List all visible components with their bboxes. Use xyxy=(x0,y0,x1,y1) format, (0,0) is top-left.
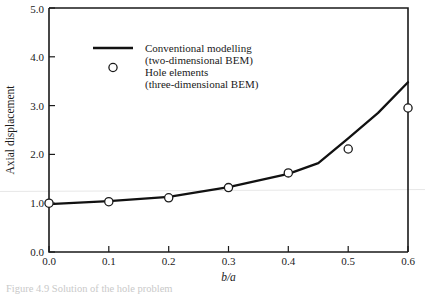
data-point-marker xyxy=(45,199,53,207)
x-tick-label: 0.6 xyxy=(401,255,415,267)
y-axis-ticks xyxy=(49,8,55,252)
x-tick-label: 0.3 xyxy=(222,255,236,267)
legend-entry-0-line1: Conventional modelling xyxy=(145,42,252,54)
data-point-marker xyxy=(165,194,173,202)
figure-caption: Figure 4.9 Solution of the hole problem xyxy=(6,283,173,294)
y-tick-label: 5.0 xyxy=(30,3,44,15)
data-point-marker xyxy=(105,198,113,206)
x-tick-label: 0.1 xyxy=(102,255,116,267)
chart-legend: Conventional modelling (two-dimensional … xyxy=(93,42,259,91)
data-point-marker xyxy=(284,169,292,177)
x-axis-ticks xyxy=(49,246,408,252)
data-point-marker xyxy=(344,145,352,153)
axial-displacement-chart: 0.0 1.0 2.0 3.0 4.0 5.0 0.0 0.1 0.2 0.3 … xyxy=(0,0,425,294)
data-point-marker xyxy=(404,104,412,112)
x-tick-labels: 0.0 0.1 0.2 0.3 0.4 0.5 0.6 xyxy=(42,255,415,267)
series-hole-elements-markers xyxy=(45,104,412,207)
legend-circle-swatch xyxy=(109,63,117,71)
y-axis-title: Axial displacement xyxy=(4,85,17,175)
data-point-marker xyxy=(224,184,232,192)
y-tick-label: 1.0 xyxy=(30,197,44,209)
y-tick-label: 3.0 xyxy=(30,100,44,112)
x-tick-label: 0.4 xyxy=(281,255,295,267)
legend-entry-1-line2: (three-dimensional BEM) xyxy=(145,78,259,91)
x-axis-title: b/a xyxy=(221,271,236,283)
y-tick-labels: 0.0 1.0 2.0 3.0 4.0 5.0 xyxy=(30,3,44,259)
y-tick-label: 2.0 xyxy=(30,148,44,160)
x-tick-label: 0.2 xyxy=(162,255,176,267)
x-tick-label: 0.5 xyxy=(341,255,355,267)
x-tick-label: 0.0 xyxy=(42,255,56,267)
y-tick-label: 4.0 xyxy=(30,51,44,63)
figure-container: 0.0 1.0 2.0 3.0 4.0 5.0 0.0 0.1 0.2 0.3 … xyxy=(0,0,425,294)
legend-entry-1-line1: Hole elements xyxy=(145,66,208,78)
